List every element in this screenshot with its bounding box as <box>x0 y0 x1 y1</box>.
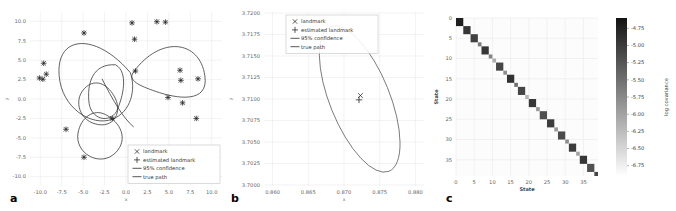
y-tick-label: -10.0 <box>13 173 26 179</box>
x-tick-label: 0.0 <box>122 189 130 195</box>
y-tick-label: 10.0 <box>14 18 26 24</box>
heatmap-diagonal-block <box>496 63 503 71</box>
y-tick-label: 7.5 <box>18 38 26 44</box>
legend-label: landmark <box>301 18 326 24</box>
legend-label: landmark <box>143 148 168 154</box>
x-tick-label: 10 <box>489 179 496 185</box>
y-tick-label: -2.5 <box>16 115 26 121</box>
panel-c-label: c <box>446 192 453 205</box>
x-tick-label: 0.860 <box>265 189 280 195</box>
panel-b-legend: landmarkestimated landmark95% confidence… <box>286 15 378 54</box>
y-tick-label: 3.7100 <box>242 96 260 102</box>
x-tick-label: 25 <box>544 179 551 185</box>
colorbar <box>616 18 627 176</box>
panel-b: 0.8600.8650.8700.8750.8803.72003.71753.7… <box>228 0 428 211</box>
y-tick-label: 3.7150 <box>242 53 260 59</box>
y-tick-label: -7.5 <box>16 154 26 160</box>
heatmap-diagonal-block <box>456 18 463 26</box>
heatmap-diagonal-block <box>580 156 587 164</box>
x-tick-label: -10.0 <box>34 189 47 195</box>
legend-label: estimated landmark <box>301 27 353 33</box>
x-axis-title: State <box>519 186 535 192</box>
colorbar-title: log covariance <box>663 78 670 116</box>
colorbar-tick-label: -6.50 <box>631 145 644 151</box>
x-tick-label: 35 <box>580 179 587 185</box>
legend-label: 95% confidence <box>301 35 343 41</box>
heatmap-diagonal-block <box>536 107 540 111</box>
y-tick-label: 3.7000 <box>242 182 260 188</box>
y-tick-label: 0.0 <box>18 96 26 102</box>
heatmap-diagonal-block <box>478 42 482 46</box>
x-tick-label: 0.875 <box>372 189 387 195</box>
heatmap-diagonal-block <box>492 59 496 63</box>
y-tick-label: 30 <box>445 136 452 142</box>
y-axis-title: State <box>433 89 439 105</box>
colorbar-tick-label: -5.00 <box>631 42 644 48</box>
colorbar-tick-label: -5.50 <box>631 77 644 83</box>
true-path-segment <box>89 65 124 119</box>
panel-a-plot: -10.0-7.5-5.0-2.50.02.55.07.510.010.07.5… <box>0 0 228 211</box>
x-tick-label: 7.5 <box>186 189 194 195</box>
y-tick-label: 3.7075 <box>242 117 260 123</box>
y-axis-title: y <box>228 97 233 100</box>
panel-b-plot: 0.8600.8650.8700.8750.8803.72003.71753.7… <box>228 0 428 211</box>
x-tick-label: 0.870 <box>337 189 352 195</box>
heatmap-diagonal-block <box>565 140 569 144</box>
heatmap-diagonal-block <box>525 95 529 99</box>
y-tick-label: 3.7050 <box>242 139 260 145</box>
heatmap-diagonal-block <box>518 87 525 95</box>
panel-c: 0510152025303505101520253035StateState-4… <box>430 0 676 211</box>
heatmap-diagonal-block <box>514 83 518 87</box>
y-axis-title: y <box>4 97 9 100</box>
legend-item[interactable]: estimated landmark <box>134 157 195 163</box>
y-tick-label: 5 <box>449 35 452 41</box>
panel-a-label: a <box>10 192 17 205</box>
heatmap-diagonal-block <box>547 119 554 127</box>
x-tick-label: -7.5 <box>57 189 67 195</box>
y-tick-label: 3.7200 <box>242 10 260 16</box>
x-axis-title: x <box>343 197 346 202</box>
heatmap-diagonal-block <box>587 164 594 172</box>
landmark-markers <box>37 19 201 160</box>
heatmap-diagonal-block <box>489 54 493 58</box>
y-tick-label: 3.7175 <box>242 31 260 37</box>
colorbar-tick-label: -5.75 <box>631 94 644 100</box>
true-path-segment <box>132 47 205 98</box>
colorbar-tick-label: -5.25 <box>631 59 644 65</box>
legend-label: true path <box>143 174 167 181</box>
x-tick-label: 20 <box>526 179 533 185</box>
x-tick-label: 5 <box>473 179 476 185</box>
heatmap-diagonal-block <box>554 127 558 131</box>
y-tick-label: -5.0 <box>16 135 26 141</box>
x-tick-label: 15 <box>507 179 514 185</box>
true-path <box>59 44 205 160</box>
panel-a: -10.0-7.5-5.0-2.50.02.55.07.510.010.07.5… <box>0 0 228 211</box>
y-tick-label: 35 <box>445 157 452 163</box>
y-tick-label: 5.0 <box>18 57 26 63</box>
legend-item[interactable]: estimated landmark <box>292 27 353 33</box>
true-path-segment <box>78 113 123 159</box>
panel-c-plot: 0510152025303505101520253035StateState-4… <box>430 0 676 211</box>
colorbar-tick-label: -6.25 <box>631 128 644 134</box>
y-tick-label: 3.7025 <box>242 160 260 166</box>
x-tick-label: -5.0 <box>78 189 88 195</box>
heatmap-diagonal-block <box>503 71 507 75</box>
heatmap-diagonal-block <box>594 172 598 176</box>
heatmap-diagonal-block <box>569 144 576 152</box>
heatmap-diagonal-block <box>540 111 547 119</box>
x-tick-label: 0 <box>454 179 457 185</box>
estimated-landmark-marker <box>356 97 362 103</box>
panel-b-label: b <box>231 192 239 205</box>
y-tick-label: 15 <box>445 76 452 82</box>
colorbar-tick-label: -6.75 <box>631 162 644 168</box>
legend-label: estimated landmark <box>143 157 195 163</box>
x-tick-label: 10.0 <box>206 189 218 195</box>
y-tick-label: 2.5 <box>18 76 26 82</box>
heatmap-diagonal-block <box>481 46 488 54</box>
heatmap-diagonal-block <box>529 99 536 107</box>
colorbar-tick-label: -4.75 <box>631 25 644 31</box>
y-tick-label: 20 <box>445 96 452 102</box>
panel-a-legend: landmarkestimated landmark95% confidence… <box>128 145 220 184</box>
y-tick-label: 25 <box>445 116 452 122</box>
x-tick-label: 0.865 <box>301 189 316 195</box>
